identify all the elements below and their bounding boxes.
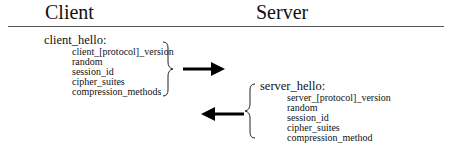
server-brace-icon (245, 84, 255, 138)
arrow-left-icon (201, 107, 244, 121)
client-brace-icon (163, 42, 173, 96)
arrow-right-icon (183, 62, 225, 76)
